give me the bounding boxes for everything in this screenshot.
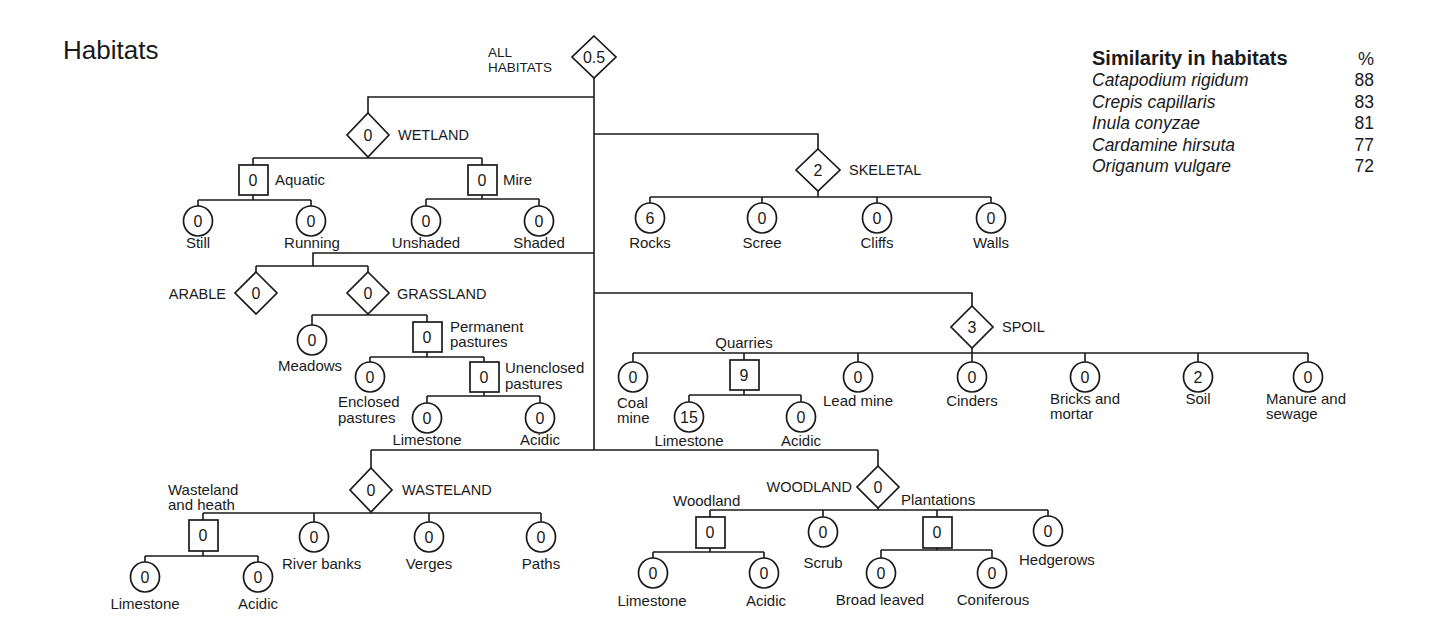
similarity-table-title: Similarity in habitats (1092, 47, 1288, 69)
node-value: 0 (199, 527, 208, 544)
node-walls: 0 Walls (973, 203, 1009, 251)
node-label: Limestone (654, 432, 723, 449)
node-skeletal: 2 SKELETAL (796, 149, 921, 191)
node-woodland-limestone: 0 Limestone (617, 558, 686, 609)
node-label: Mire (503, 171, 532, 188)
node-value: 0 (933, 524, 942, 541)
similarity-table: Similarity in habitats % Catapodium rigi… (1092, 47, 1374, 176)
node-permanent-pastures: 0 Permanent pastures (413, 318, 524, 352)
node-label: Acidic (746, 592, 787, 609)
node-unenclosed-pastures: 0 Unenclosed pastures (470, 359, 584, 392)
node-value: 0 (988, 565, 997, 582)
node-cinders: 0 Cinders (946, 362, 998, 409)
node-spoil: 3 SPOIL (951, 306, 1045, 348)
node-value: 15 (680, 409, 698, 426)
node-value: 0 (307, 213, 316, 230)
node-value: 0 (968, 369, 977, 386)
node-label-line-1: Unenclosed (505, 359, 584, 376)
node-label: Hedgerows (1019, 551, 1095, 568)
node-value: 0 (1304, 369, 1313, 386)
node-heath-acidic: 0 Acidic (238, 562, 279, 612)
node-still: 0 Still (184, 206, 213, 251)
node-broad-leaved: 0 Broad leaved (836, 558, 924, 608)
node-value: 0 (819, 524, 828, 541)
similarity-percent: 88 (1355, 70, 1374, 90)
node-meadows: 0 Meadows (278, 325, 342, 374)
node-aquatic: 0 Aquatic (239, 165, 326, 195)
node-value: 0 (706, 524, 715, 541)
node-label: Unshaded (392, 234, 460, 251)
node-label: Still (186, 234, 210, 251)
habitats-figure: Habitats 0.5 ALL HABITATS 0 WETLAND 0 Aq… (0, 0, 1436, 643)
figure-title: Habitats (63, 35, 158, 65)
node-mire: 0 Mire (468, 165, 532, 195)
node-label: SPOIL (1002, 319, 1045, 335)
node-value: 0 (760, 565, 769, 582)
node-bricks-and-mortar: 0 Bricks and mortar (1050, 362, 1120, 422)
node-label-line-2: HABITATS (488, 60, 552, 75)
similarity-percent: 81 (1355, 113, 1374, 133)
node-quarries: 9 Quarries (715, 334, 773, 390)
node-heath-limestone: 0 Limestone (110, 562, 179, 612)
node-value: 0 (194, 213, 203, 230)
node-grassland-limestone: 0 Limestone (392, 403, 461, 448)
node-arable: 0 ARABLE (169, 272, 277, 314)
node-value: 0 (310, 529, 319, 546)
similarity-percent: 83 (1355, 92, 1374, 112)
node-value: 0 (758, 210, 767, 227)
node-label-line-2: pastures (505, 375, 563, 392)
node-grassland-acidic: 0 Acidic (520, 403, 561, 448)
node-label: Meadows (278, 357, 342, 374)
node-value: 0 (649, 565, 658, 582)
node-label: Coniferous (957, 591, 1030, 608)
node-value: 3 (968, 319, 977, 336)
node-value: 0 (537, 529, 546, 546)
node-value: 0 (308, 332, 317, 349)
node-value: 0 (629, 369, 638, 386)
node-label: Verges (406, 555, 453, 572)
node-label-line-2: mine (617, 409, 650, 426)
node-manure-and-sewage: 0 Manure and sewage (1266, 362, 1346, 422)
node-cliffs: 0 Cliffs (860, 203, 893, 251)
node-value: 0 (874, 479, 883, 496)
node-verges: 0 Verges (406, 522, 453, 572)
node-value: 0 (249, 172, 258, 189)
node-label: Lead mine (823, 392, 893, 409)
node-label: Cinders (946, 392, 998, 409)
node-value: 0 (480, 369, 489, 386)
node-label: WETLAND (398, 127, 469, 143)
node-enclosed-pastures: 0 Enclosed pastures (338, 362, 400, 426)
node-value: 0 (535, 213, 544, 230)
node-all-habitats: 0.5 ALL HABITATS (488, 36, 616, 78)
node-coal-mine: 0 Coal mine (617, 362, 650, 426)
node-value: 0 (987, 210, 996, 227)
node-label: Quarries (715, 334, 773, 351)
node-value: 0 (854, 369, 863, 386)
node-value: 6 (646, 210, 655, 227)
node-label: Walls (973, 234, 1009, 251)
node-label: WASTELAND (402, 482, 492, 498)
node-grassland: 0 GRASSLAND (347, 272, 486, 314)
table-row: Cardamine hirsuta 77 (1092, 135, 1374, 155)
node-label-line-2: pastures (450, 333, 508, 350)
node-value: 0 (364, 127, 373, 144)
node-scree: 0 Scree (742, 203, 781, 251)
species-name: Cardamine hirsuta (1092, 135, 1235, 155)
node-value: 2 (1194, 369, 1203, 386)
similarity-table-unit-header: % (1358, 49, 1374, 69)
node-value: 0 (425, 529, 434, 546)
node-value: 0 (364, 285, 373, 302)
node-label: Shaded (513, 234, 565, 251)
node-label: Woodland (673, 492, 740, 509)
node-label: GRASSLAND (397, 286, 486, 302)
species-name: Inula conyzae (1092, 113, 1200, 133)
node-label: Limestone (617, 592, 686, 609)
node-value: 0 (797, 409, 806, 426)
node-label: Running (284, 234, 340, 251)
node-label: Scree (742, 234, 781, 251)
node-label: Rocks (629, 234, 671, 251)
node-label: Acidic (238, 595, 279, 612)
node-rocks: 6 Rocks (629, 203, 671, 251)
node-soil: 2 Soil (1184, 362, 1213, 407)
node-quarries-limestone: 15 Limestone (654, 402, 723, 449)
